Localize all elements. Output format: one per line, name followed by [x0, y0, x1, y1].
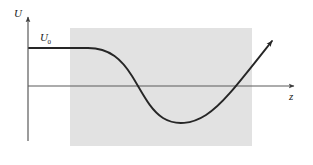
potential-well-region: [70, 28, 252, 146]
u-zero-level-subscript: 0: [48, 38, 52, 46]
x-axis-label: z: [288, 90, 294, 102]
potential-energy-figure: U z U 0: [0, 0, 313, 165]
figure-canvas: U z U 0: [0, 0, 313, 165]
y-axis-label: U: [14, 7, 23, 19]
